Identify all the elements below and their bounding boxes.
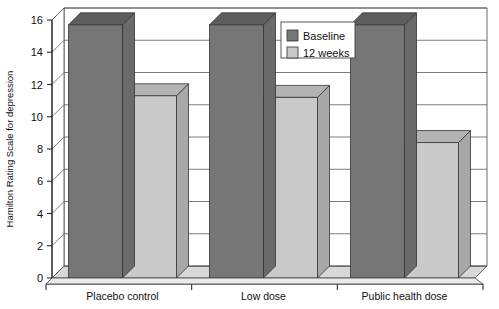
svg-text:12: 12 bbox=[31, 79, 43, 91]
svg-text:16: 16 bbox=[31, 14, 43, 26]
svg-text:0: 0 bbox=[37, 272, 43, 284]
bar-chart: 0246810121416Placebo controlLow dosePubl… bbox=[0, 0, 499, 309]
bar-side-face bbox=[264, 13, 276, 278]
legend-swatch bbox=[287, 30, 298, 41]
bar-front-face bbox=[69, 25, 123, 278]
bar-side-face bbox=[123, 13, 135, 278]
bar-front-face bbox=[351, 25, 405, 278]
bar-side-face bbox=[459, 131, 471, 278]
bar-side-face bbox=[177, 84, 189, 278]
svg-text:Low dose: Low dose bbox=[241, 290, 286, 302]
svg-text:Hamilton Rating Scale for depr: Hamilton Rating Scale for depression bbox=[4, 71, 15, 228]
svg-text:8: 8 bbox=[37, 143, 43, 155]
svg-text:Baseline: Baseline bbox=[303, 30, 345, 42]
bar-top-face bbox=[210, 13, 276, 25]
svg-text:10: 10 bbox=[31, 111, 43, 123]
bar-front-face bbox=[210, 25, 264, 278]
svg-text:4: 4 bbox=[37, 208, 43, 220]
svg-text:12 weeks: 12 weeks bbox=[303, 47, 350, 59]
bar-side-face bbox=[318, 85, 330, 278]
bar-top-face bbox=[351, 13, 417, 25]
chart-canvas: 0246810121416Placebo controlLow dosePubl… bbox=[0, 0, 499, 309]
svg-text:2: 2 bbox=[37, 240, 43, 252]
legend-swatch bbox=[287, 47, 298, 58]
svg-text:Placebo control: Placebo control bbox=[86, 290, 158, 302]
bar-side-face bbox=[405, 13, 417, 278]
chart-base-slab bbox=[46, 278, 483, 284]
svg-text:Public health dose: Public health dose bbox=[362, 290, 448, 302]
svg-text:14: 14 bbox=[31, 46, 43, 58]
svg-text:6: 6 bbox=[37, 175, 43, 187]
bar-top-face bbox=[69, 13, 135, 25]
